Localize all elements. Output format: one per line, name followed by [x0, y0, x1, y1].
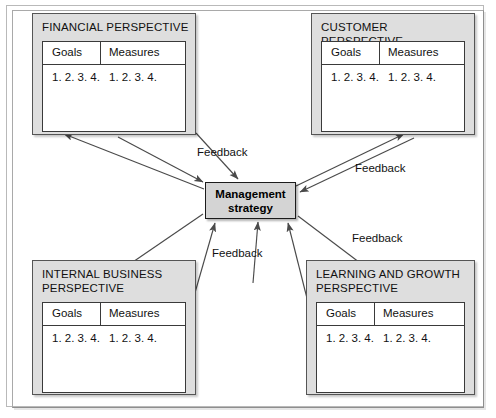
feedback-label-top-right: Feedback — [355, 162, 406, 174]
column-divider — [100, 303, 101, 326]
table-body-learning-and-growth: 1. 2. 3. 4. 1. 2. 3. 4. — [317, 326, 464, 392]
table-header-row-internal-business: Goals Measures — [43, 303, 185, 326]
column-header-measures: Measures — [109, 307, 160, 319]
panel-internal-business[interactable]: INTERNAL BUSINESS PERSPECTIVE Goals Meas… — [32, 260, 196, 395]
table-header-row-customer: Goals Measures — [322, 42, 464, 65]
table-body-financial: 1. 2. 3. 4. 1. 2. 3. 4. — [43, 65, 185, 131]
measures-items: 1. 2. 3. 4. — [109, 70, 157, 86]
column-header-goals: Goals — [52, 307, 82, 319]
feedback-label-bottom-left: Feedback — [212, 247, 263, 259]
feedback-label-top-left: Feedback — [197, 146, 248, 158]
table-financial: Goals Measures 1. 2. 3. 4. 1. 2. 3. 4. — [42, 41, 186, 132]
table-header-row-learning-and-growth: Goals Measures — [317, 303, 464, 326]
column-header-goals: Goals — [326, 307, 356, 319]
measures-items: 1. 2. 3. 4. — [388, 70, 436, 86]
table-body-internal-business: 1. 2. 3. 4. 1. 2. 3. 4. — [43, 326, 185, 392]
panel-learning-and-growth[interactable]: LEARNING AND GROWTH PERSPECTIVE Goals Me… — [306, 260, 475, 395]
measures-items: 1. 2. 3. 4. — [383, 331, 431, 347]
table-customer: Goals Measures 1. 2. 3. 4. 1. 2. 3. 4. — [321, 41, 465, 132]
table-internal-business: Goals Measures 1. 2. 3. 4. 1. 2. 3. 4. — [42, 302, 186, 393]
column-header-goals: Goals — [52, 46, 82, 58]
column-header-measures: Measures — [109, 46, 160, 58]
column-divider — [379, 42, 380, 65]
panel-financial[interactable]: FINANCIAL PERSPECTIVE Goals Measures 1. … — [32, 13, 196, 135]
panel-title-learning-and-growth: LEARNING AND GROWTH PERSPECTIVE — [316, 268, 468, 295]
table-body-customer: 1. 2. 3. 4. 1. 2. 3. 4. — [322, 65, 464, 131]
feedback-label-bottom-right: Feedback — [352, 232, 403, 244]
table-header-row-financial: Goals Measures — [43, 42, 185, 65]
panel-title-financial: FINANCIAL PERSPECTIVE — [42, 21, 189, 35]
goals-items: 1. 2. 3. 4. — [52, 70, 100, 86]
arrow-financial-to-center — [118, 137, 203, 182]
column-divider — [100, 42, 101, 65]
management-strategy-box[interactable]: Management strategy — [205, 182, 296, 219]
column-header-measures: Measures — [383, 307, 434, 319]
column-header-measures: Measures — [388, 46, 439, 58]
column-divider — [374, 303, 375, 326]
table-learning-and-growth: Goals Measures 1. 2. 3. 4. 1. 2. 3. 4. — [316, 302, 465, 393]
panel-title-internal-business: INTERNAL BUSINESS PERSPECTIVE — [42, 268, 189, 295]
management-strategy-label: Management strategy — [215, 187, 285, 215]
measures-items: 1. 2. 3. 4. — [109, 331, 157, 347]
goals-items: 1. 2. 3. 4. — [326, 331, 374, 347]
panel-customer[interactable]: CUSTOMER PERSPECTIVE Goals Measures 1. 2… — [311, 13, 475, 135]
goals-items: 1. 2. 3. 4. — [331, 70, 379, 86]
diagram-canvas: Management strategy Feedback Feedback Fe… — [0, 0, 496, 418]
arrow-center-to-financial — [64, 134, 204, 189]
arrow-center-to-customer — [296, 134, 404, 186]
column-header-goals: Goals — [331, 46, 361, 58]
goals-items: 1. 2. 3. 4. — [52, 331, 100, 347]
